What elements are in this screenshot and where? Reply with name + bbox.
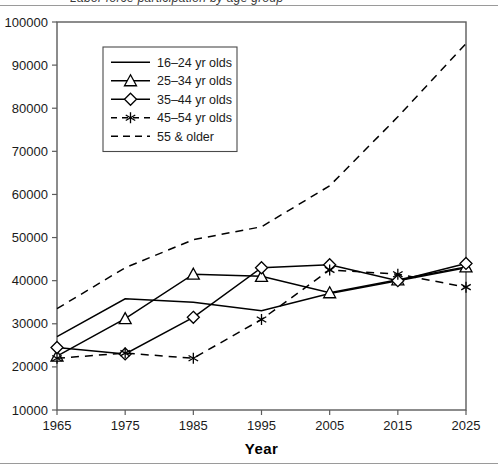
x-tick-label: 1995 — [247, 418, 276, 433]
y-tick-label: 100000 — [5, 15, 48, 30]
x-axis-ticks: 1965197519851995200520152025 — [43, 410, 481, 433]
x-tick-label: 1965 — [43, 418, 72, 433]
legend-item-label: 55 & older — [157, 130, 214, 144]
y-tick-label: 50000 — [12, 230, 48, 245]
line-chart-svg: 1000020000300004000050000600007000080000… — [0, 0, 498, 472]
x-tick-label: 1985 — [179, 418, 208, 433]
chart-legend: 16–24 yr olds25–34 yr olds35–44 yr olds4… — [103, 47, 237, 152]
diamond-marker-icon — [187, 311, 199, 323]
y-tick-label: 40000 — [12, 273, 48, 288]
triangle-marker-icon — [119, 313, 131, 324]
x-tick-label: 2005 — [315, 418, 344, 433]
y-tick-label: 70000 — [12, 144, 48, 159]
y-tick-label: 80000 — [12, 101, 48, 116]
diamond-marker-icon — [51, 341, 63, 353]
x-tick-label: 2015 — [383, 418, 412, 433]
y-tick-label: 60000 — [12, 187, 48, 202]
x-tick-label: 1975 — [111, 418, 140, 433]
x-tick-label: 2025 — [452, 418, 481, 433]
legend-item-label: 45–54 yr olds — [157, 111, 232, 125]
y-axis-ticks: 1000020000300004000050000600007000080000… — [5, 15, 57, 418]
star-marker-icon — [461, 282, 471, 293]
legend-item[interactable]: 35–44 yr olds — [111, 93, 232, 107]
y-tick-label: 10000 — [12, 403, 48, 418]
series-35-44-yr-olds — [51, 257, 472, 360]
star-marker-icon — [257, 314, 267, 325]
legend-item-label: 16–24 yr olds — [157, 56, 232, 70]
x-axis-title: Year — [245, 440, 278, 457]
legend-item-label: 35–44 yr olds — [157, 93, 232, 107]
diamond-marker-icon — [256, 262, 268, 274]
chart-figure: Labor force participation by age group 1… — [0, 0, 498, 472]
y-tick-label: 30000 — [12, 316, 48, 331]
legend-item-label: 25–34 yr olds — [157, 74, 232, 88]
y-tick-label: 90000 — [12, 58, 48, 73]
y-tick-label: 20000 — [12, 359, 48, 374]
legend-item[interactable]: 25–34 yr olds — [111, 74, 232, 88]
bottom-divider-rule — [0, 463, 498, 464]
